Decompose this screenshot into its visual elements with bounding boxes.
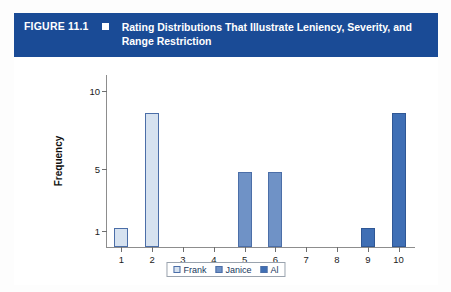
y-tick-mark xyxy=(102,91,107,92)
legend-label: Al xyxy=(271,265,279,275)
x-tick-label: 1 xyxy=(119,254,124,265)
x-tick-mark xyxy=(306,247,307,252)
y-tick-mark xyxy=(102,169,107,170)
y-tick-label: 1 xyxy=(95,226,100,237)
x-tick-mark xyxy=(275,247,276,252)
x-tick-mark xyxy=(368,247,369,252)
bar xyxy=(114,228,128,247)
figure-container: FIGURE 11.1 Rating Distributions That Il… xyxy=(0,0,451,292)
legend-label: Frank xyxy=(183,265,206,275)
legend-swatch xyxy=(173,266,180,273)
x-tick-mark xyxy=(245,247,246,252)
figure-title: Rating Distributions That Illustrate Len… xyxy=(122,20,430,48)
x-tick-mark xyxy=(183,247,184,252)
bar xyxy=(145,113,159,247)
legend-item: Janice xyxy=(215,265,251,275)
y-tick-label: 5 xyxy=(95,163,100,174)
x-tick-mark xyxy=(337,247,338,252)
x-tick-mark xyxy=(214,247,215,252)
x-tick-label: 2 xyxy=(150,254,155,265)
x-tick-mark xyxy=(152,247,153,252)
y-axis-title: Frequency xyxy=(53,136,64,187)
x-tick-label: 7 xyxy=(304,254,309,265)
bar xyxy=(361,228,375,247)
chart-panel: Frequency 1510 12345678910 FrankJaniceAl xyxy=(14,57,438,285)
legend-item: Frank xyxy=(173,265,206,275)
x-tick-label: 10 xyxy=(393,254,404,265)
figure-header-bar: FIGURE 11.1 Rating Distributions That Il… xyxy=(14,13,438,57)
legend-swatch xyxy=(261,266,268,273)
bar xyxy=(392,113,406,247)
legend-swatch xyxy=(215,266,222,273)
y-tick-label: 10 xyxy=(89,85,100,96)
x-tick-mark xyxy=(121,247,122,252)
bar xyxy=(268,172,282,247)
legend-label: Janice xyxy=(225,265,251,275)
plot-area: 1510 12345678910 xyxy=(106,75,414,247)
filled-square-icon xyxy=(102,23,109,30)
y-tick-mark xyxy=(102,231,107,232)
x-tick-label: 9 xyxy=(365,254,370,265)
legend-item: Al xyxy=(261,265,279,275)
bar xyxy=(238,172,252,247)
x-tick-label: 8 xyxy=(334,254,339,265)
chart-legend: FrankJaniceAl xyxy=(166,262,285,277)
x-tick-mark xyxy=(399,247,400,252)
figure-number-label: FIGURE 11.1 xyxy=(24,20,89,33)
